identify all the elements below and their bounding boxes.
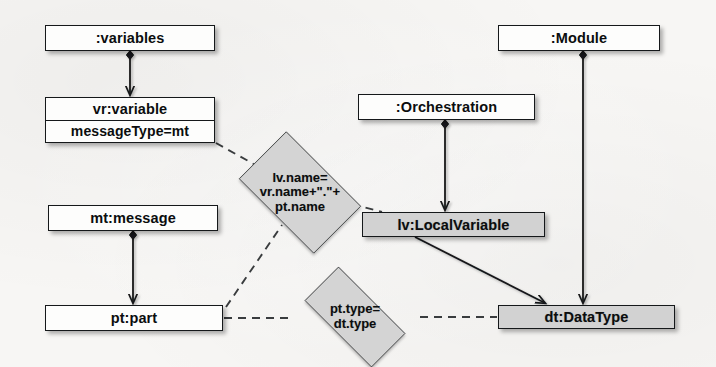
node-variables[interactable]: :variables (45, 25, 215, 51)
node-mt-message[interactable]: mt:message (48, 205, 218, 231)
node-orchestration-label: :Orchestration (359, 95, 534, 119)
node-orchestration[interactable]: :Orchestration (358, 94, 535, 120)
constraint-type-diamond[interactable]: pt.type= dt.type (288, 283, 422, 351)
constraint-name-line-3: pt.name (260, 200, 340, 215)
node-dt-datatype[interactable]: dt:DataType (498, 305, 675, 329)
node-lv-localvariable-label: lv:LocalVariable (363, 213, 544, 236)
constraint-name-line-2: vr.name+"."+ (260, 185, 340, 200)
constraint-name-text: lv.name= vr.name+"."+ pt.name (260, 171, 340, 215)
constraint-type-line-2: dt.type (330, 317, 380, 332)
constraint-type-line-1: pt.type= (330, 302, 380, 317)
node-vr-variable-label: vr:variable (46, 98, 214, 120)
constraint-type-text: pt.type= dt.type (330, 302, 380, 331)
node-dt-datatype-label: dt:DataType (499, 306, 674, 328)
constraint-name-line-1: lv.name= (260, 171, 340, 186)
diagram-canvas: :variables vr:variable messageType=mt mt… (0, 0, 716, 367)
node-mt-message-label: mt:message (49, 206, 217, 230)
node-pt-part[interactable]: pt:part (45, 305, 223, 331)
node-lv-localvariable[interactable]: lv:LocalVariable (362, 212, 545, 237)
node-vr-variable[interactable]: vr:variable messageType=mt (45, 97, 215, 143)
edge-lv-localvariable-to-dt-datatype (415, 237, 545, 303)
node-module[interactable]: :Module (498, 25, 660, 51)
node-vr-variable-attribute: messageType=mt (46, 120, 214, 143)
node-variables-label: :variables (46, 26, 214, 50)
node-module-label: :Module (499, 26, 659, 50)
constraint-name-diamond[interactable]: lv.name= vr.name+"."+ pt.name (225, 145, 375, 240)
node-pt-part-label: pt:part (46, 306, 222, 330)
